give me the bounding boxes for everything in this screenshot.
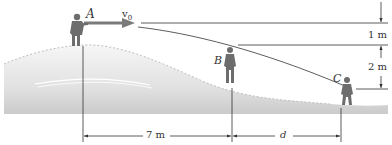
velocity-subscript: 0 — [128, 14, 132, 22]
label-point-b: B — [214, 55, 222, 66]
label-dim-1m: 1 m — [368, 30, 387, 40]
projectile-diagram: A v0 B C 1 m 2 m 7 m d — [0, 0, 392, 145]
person-b-figure — [224, 47, 236, 83]
hill-slope — [4, 45, 388, 114]
label-dim-7m: 7 m — [146, 130, 165, 140]
label-dim-2m: 2 m — [368, 62, 387, 72]
label-dim-d: d — [280, 130, 286, 140]
label-point-a: A — [86, 8, 95, 20]
label-velocity: v0 — [122, 9, 132, 22]
person-c-figure — [341, 77, 353, 105]
label-point-c: C — [333, 73, 341, 84]
